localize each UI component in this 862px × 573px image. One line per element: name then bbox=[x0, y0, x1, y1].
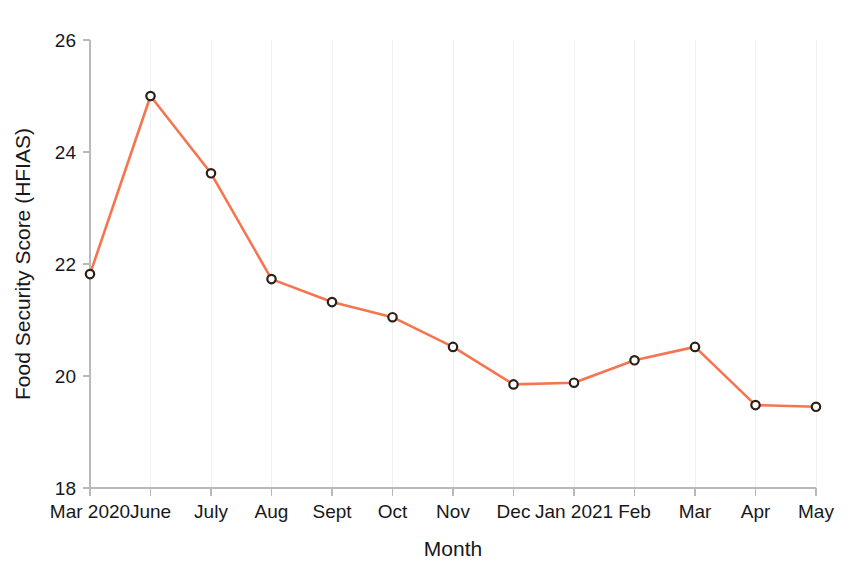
data-point-marker bbox=[146, 92, 154, 100]
line-chart: 1820222426 Mar 2020JuneJulyAugSeptOctNov… bbox=[0, 0, 862, 573]
marker-circle bbox=[570, 379, 578, 387]
data-point-marker bbox=[812, 403, 820, 411]
y-tick-label: 18 bbox=[55, 478, 76, 499]
marker-circle bbox=[751, 401, 759, 409]
x-tick-label: Feb bbox=[618, 501, 651, 522]
x-tick-label: May bbox=[798, 501, 834, 522]
data-point-marker bbox=[691, 343, 699, 351]
data-point-marker bbox=[509, 380, 517, 388]
data-point-marker bbox=[207, 169, 215, 177]
marker-circle bbox=[691, 343, 699, 351]
marker-circle bbox=[267, 275, 275, 283]
marker-circle bbox=[328, 298, 336, 306]
x-tick-label: Sept bbox=[312, 501, 352, 522]
x-tick-label: Mar bbox=[679, 501, 712, 522]
data-point-marker bbox=[449, 343, 457, 351]
marker-circle bbox=[146, 92, 154, 100]
x-tick-label: July bbox=[194, 501, 228, 522]
x-tick-label: Aug bbox=[255, 501, 289, 522]
y-axis-title: Food Security Score (HFIAS) bbox=[11, 128, 34, 400]
marker-circle bbox=[207, 169, 215, 177]
marker-circle bbox=[388, 313, 396, 321]
data-point-marker bbox=[267, 275, 275, 283]
x-tick-label: Nov bbox=[436, 501, 470, 522]
x-tick-label: Apr bbox=[741, 501, 771, 522]
data-point-marker bbox=[570, 379, 578, 387]
marker-circle bbox=[449, 343, 457, 351]
marker-circle bbox=[630, 356, 638, 364]
data-point-marker bbox=[388, 313, 396, 321]
chart-background bbox=[0, 0, 862, 573]
y-tick-label: 20 bbox=[55, 366, 76, 387]
data-point-marker bbox=[751, 401, 759, 409]
x-tick-label: June bbox=[130, 501, 171, 522]
x-axis-title: Month bbox=[424, 537, 482, 560]
data-point-marker bbox=[328, 298, 336, 306]
x-tick-label: Jan 2021 bbox=[535, 501, 613, 522]
y-tick-label: 26 bbox=[55, 30, 76, 51]
y-tick-label: 22 bbox=[55, 254, 76, 275]
x-tick-label: Mar 2020 bbox=[50, 501, 130, 522]
marker-circle bbox=[86, 270, 94, 278]
marker-circle bbox=[812, 403, 820, 411]
x-tick-label: Dec bbox=[497, 501, 531, 522]
chart-container: 1820222426 Mar 2020JuneJulyAugSeptOctNov… bbox=[0, 0, 862, 573]
x-tick-label: Oct bbox=[378, 501, 408, 522]
y-tick-label: 24 bbox=[55, 142, 77, 163]
marker-circle bbox=[509, 380, 517, 388]
data-point-marker bbox=[86, 270, 94, 278]
data-point-marker bbox=[630, 356, 638, 364]
